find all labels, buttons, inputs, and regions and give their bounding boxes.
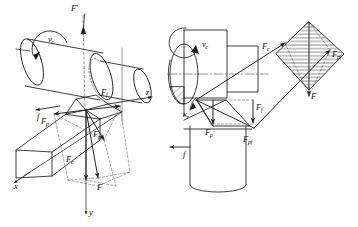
label-kappa-r: κr (183, 110, 189, 119)
label-Fp-left: Fp (41, 117, 49, 126)
label-feed-right: f (183, 150, 185, 159)
label-Fc-left: Fc (66, 155, 74, 164)
label-vc-right: vc (202, 40, 208, 49)
label-feed-left: f (37, 112, 39, 121)
force-vectors-left (54, 106, 120, 180)
label-Fpf-right-upper: Fpf (332, 50, 342, 59)
label-Fc-right: Fc (262, 42, 270, 51)
label-axis-x: x (14, 182, 18, 191)
label-vc-left: vc (48, 35, 54, 44)
label-axis-z: z (146, 88, 149, 97)
line-cut-edge (196, 100, 254, 128)
figure-root: F′ vc f Ff Fp Fpf Fc F x y z vc κr f Fc … (0, 0, 358, 227)
left-oblique-view (14, 14, 155, 214)
label-F-resultant-left: F (97, 183, 102, 192)
label-Ff-left: Ff (101, 88, 108, 97)
label-Fpf-left: Fpf (93, 130, 103, 139)
label-Fp-right: Fp (205, 128, 213, 137)
label-Ff-right: Ff (256, 103, 263, 112)
label-F-resultant-right: F (311, 92, 316, 101)
label-F-prime: F′ (71, 4, 78, 13)
coordinate-axes-left (14, 97, 152, 214)
feed-arrow-left (36, 106, 60, 110)
workpiece-cylinder (16, 36, 155, 105)
cutting-tool-plan (184, 100, 252, 192)
label-axis-y: y (89, 208, 93, 217)
vector-Fc-plan (196, 43, 285, 100)
label-Fpf-right-lower: Fpf (243, 135, 253, 144)
